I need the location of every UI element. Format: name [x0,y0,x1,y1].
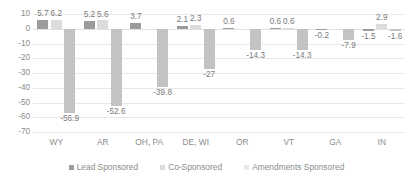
bar[interactable] [64,29,75,113]
bar[interactable] [37,20,48,28]
bar-slot: -1.5 [363,14,374,132]
chart-legend: Lead SponsoredCo-SponsoredAmendments Spo… [0,160,413,174]
bar-group-bars: 3.7-39.8 [126,14,173,132]
bar[interactable] [157,29,168,88]
bar-group: -1.52.9-1.6 [359,14,406,132]
bar-value-label: 3.7 [130,12,141,21]
bar-value-label: 2.9 [376,13,387,22]
bar-value-label: -7.9 [342,41,356,50]
bar-slot: -7.9 [343,14,354,132]
bar[interactable] [297,29,308,50]
bar-slot: 2.9 [376,14,387,132]
legend-swatch-icon [69,165,74,170]
bar-group: 5.25.6-52.6 [80,14,127,132]
bar[interactable] [130,23,141,28]
bar[interactable] [84,21,95,29]
bar-group-bars: 5.25.6-52.6 [80,14,127,132]
bar-slot [237,14,248,132]
bar-group-bars: 2.12.3-27 [173,14,220,132]
y-axis-tick-label: -30 [0,69,30,77]
x-axis-category-label: AR [80,136,127,150]
bar-group-bars: -0.2-7.9 [312,14,359,132]
y-axis-tick-label: -10 [0,40,30,48]
y-axis: 100-10-20-30-40-50-60-70 [0,14,30,132]
legend-item[interactable]: Amendments Sponsored [244,163,344,172]
bar-slot: 5.2 [84,14,95,132]
bar-group: -0.2-7.9 [312,14,359,132]
bar[interactable] [363,29,374,31]
x-axis-labels: WYAROH, PADE, WIORVTGAIN [33,136,405,150]
bar-value-label: -14.3 [246,51,265,60]
bar-slot: -14.3 [297,14,308,132]
bar[interactable] [204,29,215,69]
bar-group-bars: 0.6-14.3 [219,14,266,132]
bar-groups: 5.76.2-56.95.25.6-52.63.7-39.82.12.3-270… [33,14,405,132]
plot-area: 5.76.2-56.95.25.6-52.63.7-39.82.12.3-270… [33,14,405,132]
bar-value-label: 5.7 [37,9,48,18]
bar-group: 5.76.2-56.9 [33,14,80,132]
bar-value-label: -39.8 [153,88,172,97]
bar-value-label: -1.6 [388,32,402,41]
x-axis-category-label: DE, WI [173,136,220,150]
bar-slot [330,14,341,132]
legend-item[interactable]: Co-Sponsored [160,163,222,172]
y-axis-tick-label: 0 [0,25,30,33]
legend-swatch-icon [160,165,165,170]
bar-value-label: -27 [203,70,215,79]
bar-value-label: -0.2 [315,31,329,40]
y-axis-tick-label: -40 [0,84,30,92]
bar-value-label: 6.2 [51,9,62,18]
bar-group-bars: 0.60.6-14.3 [266,14,313,132]
bar[interactable] [343,29,354,41]
y-axis-tick-label: 10 [0,10,30,18]
x-axis-category-label: WY [33,136,80,150]
bar[interactable] [316,29,327,31]
bar-value-label: 5.2 [84,10,95,19]
legend-item[interactable]: Lead Sponsored [69,163,138,172]
bar[interactable] [390,29,401,31]
bar[interactable] [270,28,281,30]
bar-value-label: 2.3 [190,14,201,23]
bar-group: 0.60.6-14.3 [266,14,313,132]
y-axis-tick-label: -50 [0,99,30,107]
legend-label: Amendments Sponsored [252,163,344,172]
legend-label: Lead Sponsored [77,163,138,172]
bar[interactable] [223,28,234,30]
bar[interactable] [190,25,201,28]
bar-slot: -14.3 [250,14,261,132]
bar-group: 3.7-39.8 [126,14,173,132]
bar[interactable] [97,20,108,28]
bar[interactable] [177,26,188,29]
bar[interactable] [376,24,387,28]
bar-group: 0.6-14.3 [219,14,266,132]
bar[interactable] [250,29,261,50]
y-axis-tick-label: -60 [0,113,30,121]
bar-slot: -0.2 [316,14,327,132]
legend-label: Co-Sponsored [168,163,222,172]
y-axis-tick-label: -70 [0,128,30,136]
bar-slot: 2.3 [190,14,201,132]
bar-chart: 100-10-20-30-40-50-60-70 5.76.2-56.95.25… [0,0,413,180]
bar-slot: 0.6 [270,14,281,132]
x-axis-category-label: OH, PA [126,136,173,150]
legend-swatch-icon [244,165,249,170]
bar-value-label: -52.6 [107,107,126,116]
x-axis-category-label: OR [219,136,266,150]
bar-value-label: 5.6 [97,10,108,19]
bar-value-label: -1.5 [361,32,375,41]
bar[interactable] [111,29,122,107]
bar-slot [144,14,155,132]
y-axis-tick-label: -20 [0,54,30,62]
x-axis-category-label: VT [266,136,313,150]
bar-slot: 2.1 [177,14,188,132]
bar-value-label: 0.6 [283,17,294,26]
bar[interactable] [283,28,294,30]
bar[interactable] [51,20,62,29]
bar-value-label: 0.6 [270,17,281,26]
bar-value-label: 0.6 [223,17,234,26]
bar-slot: -56.9 [64,14,75,132]
x-axis-category-label: GA [312,136,359,150]
bar-value-label: -14.3 [293,51,312,60]
bar-slot: -27 [204,14,215,132]
bar-group-bars: -1.52.9-1.6 [359,14,406,132]
